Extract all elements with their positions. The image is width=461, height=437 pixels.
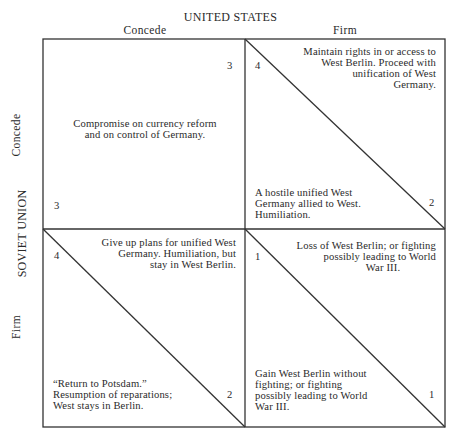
text-line: Maintain rights in or access to bbox=[270, 46, 436, 57]
us-outcome-firm-firm: Loss of West Berlin; or fighting possibl… bbox=[270, 240, 436, 273]
text-line: Gain West Berlin without bbox=[255, 368, 395, 379]
text-line: and on control of Germany. bbox=[55, 129, 235, 140]
payoff-us-concede-su-firm: 4 bbox=[54, 250, 59, 261]
text-line: Compromise on currency reform bbox=[55, 118, 235, 129]
text-line: Give up plans for unified West bbox=[72, 237, 236, 248]
payoff-su-concede-us-firm: 2 bbox=[429, 197, 434, 208]
payoff-us-firm-su-firm: 1 bbox=[255, 251, 260, 262]
text-line: Germany allied to West. bbox=[255, 198, 395, 209]
text-line: unification of West bbox=[270, 68, 436, 79]
payoff-us-firm-su-concede: 4 bbox=[255, 60, 260, 71]
text-line: West Berlin. Proceed with bbox=[270, 57, 436, 68]
us-outcome-concede-su-firm: Give up plans for unified West Germany. … bbox=[72, 237, 236, 270]
text-line: possibly leading to World bbox=[255, 390, 395, 401]
text-line: possibly leading to World bbox=[270, 251, 436, 262]
su-outcome-concede-us-firm: A hostile unified West Germany allied to… bbox=[255, 187, 395, 220]
text-line: Germany. bbox=[270, 79, 436, 90]
text-line: A hostile unified West bbox=[255, 187, 395, 198]
text-line: West stays in Berlin. bbox=[53, 400, 203, 411]
text-line: stay in West Berlin. bbox=[72, 259, 236, 270]
payoff-su-firm-firm: 1 bbox=[429, 389, 434, 400]
text-line: “Return to Potsdam.” bbox=[53, 378, 203, 389]
text-line: War III. bbox=[270, 262, 436, 273]
payoff-su-concede-concede: 3 bbox=[54, 200, 59, 211]
su-outcome-firm-firm: Gain West Berlin without fighting; or fi… bbox=[255, 368, 395, 412]
us-outcome-firm-su-concede: Maintain rights in or access to West Ber… bbox=[270, 46, 436, 90]
payoff-us-concede-concede: 3 bbox=[227, 60, 232, 71]
text-line: Humiliation. bbox=[255, 209, 395, 220]
text-line: Loss of West Berlin; or fighting bbox=[270, 240, 436, 251]
text-line: Germany. Humiliation, but bbox=[72, 248, 236, 259]
text-line: War III. bbox=[255, 401, 395, 412]
su-outcome-firm-us-concede: “Return to Potsdam.” Resumption of repar… bbox=[53, 378, 203, 411]
outcome-concede-concede: Compromise on currency reform and on con… bbox=[55, 118, 235, 140]
text-line: Resumption of reparations; bbox=[53, 389, 203, 400]
text-line: fighting; or fighting bbox=[255, 379, 395, 390]
payoff-su-firm-us-concede: 2 bbox=[227, 389, 232, 400]
